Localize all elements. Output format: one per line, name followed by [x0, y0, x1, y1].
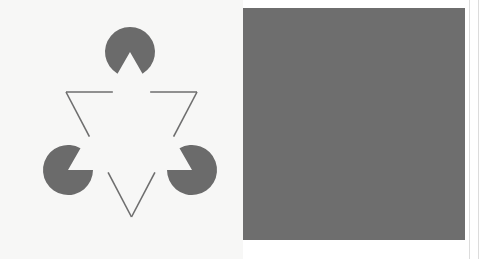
right-inner-rule [469, 0, 470, 259]
dark-panel-background [243, 8, 465, 240]
kanizsa-figure-root [0, 0, 487, 259]
right-panel-canvas [0, 0, 487, 259]
right-panel [0, 0, 487, 259]
right-outer-rule [478, 0, 479, 259]
